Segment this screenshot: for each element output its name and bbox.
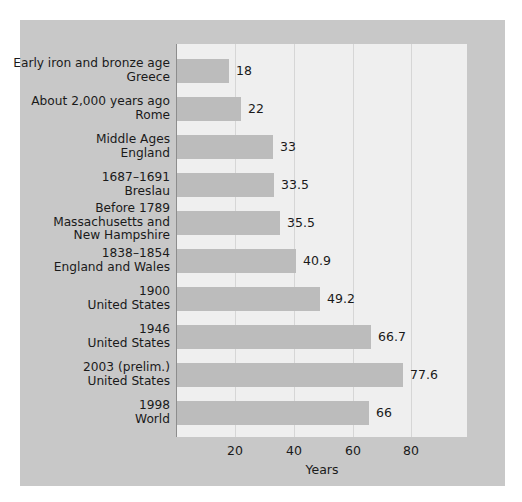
category-label: 1838–1854 England and Wales (0, 247, 170, 274)
bar-value-label: 40.9 (303, 255, 331, 268)
xtick-label: 60 (345, 443, 361, 458)
xtick-label: 20 (227, 443, 243, 458)
bar-row: 77.6 (177, 363, 477, 387)
bar-value-label: 77.6 (410, 369, 438, 382)
category-label: 1998 World (0, 399, 170, 426)
bar-value-label: 49.2 (327, 293, 355, 306)
bar-value-label: 18 (236, 65, 252, 78)
category-label: 2003 (prelim.) United States (0, 361, 170, 388)
bar-value-label: 35.5 (287, 217, 315, 230)
bar[interactable] (177, 363, 403, 387)
bar-row: 33.5 (177, 173, 477, 197)
category-label: 1946 United States (0, 323, 170, 350)
category-label: Early iron and bronze age Greece (0, 57, 170, 84)
bar[interactable] (177, 97, 241, 121)
bar-row: 18 (177, 59, 477, 83)
bar-value-label: 66 (376, 407, 392, 420)
bar-value-label: 33 (280, 141, 296, 154)
bar[interactable] (177, 211, 280, 235)
bar-value-label: 33.5 (281, 179, 309, 192)
bar-row: 66 (177, 401, 477, 425)
bar-row: 22 (177, 97, 477, 121)
category-label: 1900 United States (0, 285, 170, 312)
bar[interactable] (177, 135, 273, 159)
category-label: Middle Ages England (0, 133, 170, 160)
xtick-label: 80 (403, 443, 419, 458)
bar-value-label: 22 (248, 103, 264, 116)
bar-row: 33 (177, 135, 477, 159)
bar-row: 35.5 (177, 211, 477, 235)
bar-row: 66.7 (177, 325, 477, 349)
bar[interactable] (177, 401, 369, 425)
bar-value-label: 66.7 (378, 331, 406, 344)
bar[interactable] (177, 59, 229, 83)
category-label: About 2,000 years ago Rome (0, 95, 170, 122)
category-label: 1687–1691 Breslau (0, 171, 170, 198)
bar[interactable] (177, 249, 296, 273)
figure: Early iron and bronze age Greece About 2… (0, 0, 522, 502)
xtick-label: 40 (286, 443, 302, 458)
category-label: Before 1789 Massachusetts and New Hampsh… (0, 202, 170, 243)
x-axis-title: Years (177, 462, 467, 477)
bar[interactable] (177, 325, 371, 349)
bar-row: 40.9 (177, 249, 477, 273)
bar[interactable] (177, 173, 274, 197)
bar[interactable] (177, 287, 320, 311)
bar-row: 49.2 (177, 287, 477, 311)
